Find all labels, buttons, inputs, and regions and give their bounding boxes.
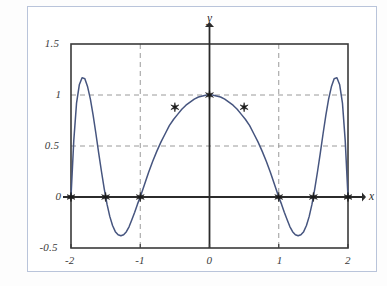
data-point-marker — [171, 103, 179, 112]
y-tick-label: 1 — [56, 88, 62, 100]
y-tick-label: 0.5 — [45, 139, 59, 151]
x-tick-label: 2 — [345, 254, 351, 266]
figure-canvas: y x -2-10121.510.50-0.5 — [0, 0, 387, 286]
y-tick-label: 0 — [56, 190, 62, 202]
x-axis-label: x — [369, 190, 374, 202]
y-tick-label: 1.5 — [45, 37, 59, 49]
x-tick-label: 0 — [207, 254, 213, 266]
x-axis-arrowhead — [362, 193, 366, 202]
x-tick-label: -2 — [65, 254, 75, 266]
y-axis-label: y — [207, 12, 212, 24]
y-tick-label: -0.5 — [39, 241, 57, 253]
x-tick-label: 1 — [277, 254, 283, 266]
data-point-marker — [240, 103, 248, 112]
x-tick-label: -1 — [135, 254, 145, 266]
